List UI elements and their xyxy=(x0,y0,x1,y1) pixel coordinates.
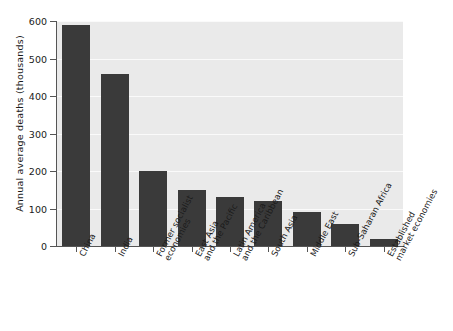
y-axis-tick-label: 300 xyxy=(0,128,47,139)
y-axis-tick-label: 600 xyxy=(0,16,47,27)
y-axis-tick-mark xyxy=(50,134,56,135)
y-axis-tick-label: 100 xyxy=(0,203,47,214)
x-axis-tick-mark xyxy=(115,247,116,252)
y-axis-tick-label: 0 xyxy=(0,241,47,252)
y-axis-tick-mark xyxy=(50,96,56,97)
x-axis-tick-mark xyxy=(192,247,193,252)
y-axis-tick-mark xyxy=(50,21,56,22)
y-axis-tick-label: 400 xyxy=(0,91,47,102)
y-axis-tick-mark xyxy=(50,59,56,60)
y-axis-tick-mark xyxy=(50,209,56,210)
y-axis-line xyxy=(56,21,57,247)
bar xyxy=(62,25,90,246)
y-axis-tick-mark xyxy=(50,171,56,172)
x-axis-tick-mark xyxy=(384,247,385,252)
y-axis-tick-mark xyxy=(50,246,56,247)
y-axis-tick-label: 500 xyxy=(0,53,47,64)
bar-chart-figure: Annual average deaths (thousands) 010020… xyxy=(0,0,453,331)
x-axis-tick-mark xyxy=(307,247,308,252)
bar xyxy=(101,74,129,247)
y-axis-tick-label: 200 xyxy=(0,166,47,177)
